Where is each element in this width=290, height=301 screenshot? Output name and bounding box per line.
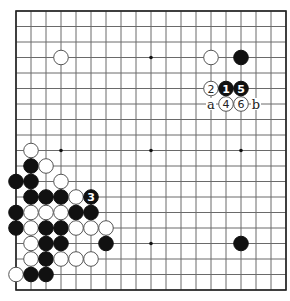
black-stone xyxy=(234,50,249,65)
black-stone xyxy=(84,205,99,220)
point-label: b xyxy=(251,97,261,112)
white-stone xyxy=(24,236,39,251)
black-stone: 1 xyxy=(219,81,234,96)
white-stone xyxy=(99,221,114,236)
white-stone: 2 xyxy=(204,81,219,96)
white-stone-circle xyxy=(69,252,84,267)
black-stone: 3 xyxy=(84,190,99,205)
black-stone-circle xyxy=(9,205,24,220)
white-stone-circle xyxy=(39,205,54,220)
move-number: 4 xyxy=(223,98,230,111)
white-stone-circle xyxy=(204,50,219,65)
star-point xyxy=(149,242,153,246)
black-stone xyxy=(39,190,54,205)
white-stone xyxy=(54,174,69,189)
black-stone-circle xyxy=(24,174,39,189)
black-stone xyxy=(9,221,24,236)
black-stone-circle xyxy=(234,50,249,65)
black-stone xyxy=(39,252,54,267)
black-stone xyxy=(234,236,249,251)
black-stone-circle xyxy=(234,236,249,251)
white-stone-circle xyxy=(84,221,99,236)
white-stone-circle xyxy=(69,190,84,205)
black-stone xyxy=(24,267,39,282)
black-stone-circle xyxy=(24,190,39,205)
white-stone-circle xyxy=(54,174,69,189)
white-stone xyxy=(54,205,69,220)
white-stone: 6 xyxy=(234,97,249,112)
black-stone xyxy=(24,174,39,189)
black-stone-circle xyxy=(39,221,54,236)
white-stone xyxy=(84,221,99,236)
black-stone xyxy=(39,221,54,236)
star-point xyxy=(149,149,153,153)
black-stone-circle xyxy=(39,267,54,282)
black-stone-circle xyxy=(99,236,114,251)
white-stone xyxy=(39,205,54,220)
go-board-diagram: 215463 ab xyxy=(0,0,290,301)
white-stone xyxy=(84,252,99,267)
white-stone xyxy=(54,50,69,65)
white-stone xyxy=(54,252,69,267)
star-point xyxy=(239,149,243,153)
white-stone-circle xyxy=(54,252,69,267)
black-stone: 5 xyxy=(234,81,249,96)
black-stone xyxy=(39,267,54,282)
white-stone xyxy=(24,205,39,220)
label-text: b xyxy=(252,97,260,112)
white-stone-circle xyxy=(39,159,54,174)
black-stone-circle xyxy=(9,174,24,189)
black-stone-circle xyxy=(54,236,69,251)
white-stone xyxy=(9,267,24,282)
black-stone xyxy=(24,190,39,205)
star-point xyxy=(59,149,63,153)
white-stone-circle xyxy=(24,236,39,251)
move-number: 3 xyxy=(87,191,95,204)
white-stone-circle xyxy=(54,50,69,65)
white-stone-circle xyxy=(99,221,114,236)
white-stone-circle xyxy=(24,252,39,267)
white-stone xyxy=(204,50,219,65)
white-stone-circle xyxy=(24,205,39,220)
black-stone-circle xyxy=(84,205,99,220)
black-stone-circle xyxy=(9,221,24,236)
white-stone xyxy=(24,252,39,267)
black-stone xyxy=(9,174,24,189)
white-stone xyxy=(24,221,39,236)
white-stone-circle xyxy=(84,252,99,267)
label-text: a xyxy=(207,97,215,112)
move-number: 5 xyxy=(237,83,245,96)
white-stone xyxy=(69,252,84,267)
star-point xyxy=(149,56,153,60)
point-label: a xyxy=(206,97,216,112)
go-board: 215463 ab xyxy=(0,0,290,301)
black-stone xyxy=(24,159,39,174)
black-stone xyxy=(99,236,114,251)
black-stone-circle xyxy=(39,236,54,251)
black-stone xyxy=(9,205,24,220)
black-stone-circle xyxy=(39,252,54,267)
white-stone-circle xyxy=(69,221,84,236)
black-stone-circle xyxy=(24,159,39,174)
black-stone xyxy=(54,236,69,251)
black-stone xyxy=(54,190,69,205)
white-stone: 4 xyxy=(219,97,234,112)
white-stone-circle xyxy=(9,267,24,282)
white-stone-circle xyxy=(24,143,39,158)
white-stone xyxy=(24,143,39,158)
black-stone-circle xyxy=(39,190,54,205)
black-stone xyxy=(39,236,54,251)
black-stone-circle xyxy=(69,205,84,220)
white-stone xyxy=(69,221,84,236)
black-stone-circle xyxy=(54,190,69,205)
black-stone xyxy=(54,221,69,236)
move-number: 6 xyxy=(238,98,245,111)
white-stone xyxy=(69,190,84,205)
move-number: 2 xyxy=(208,83,215,96)
black-stone xyxy=(69,205,84,220)
white-stone xyxy=(39,159,54,174)
white-stone-circle xyxy=(24,221,39,236)
white-stone-circle xyxy=(54,205,69,220)
move-number: 1 xyxy=(222,83,230,96)
black-stone-circle xyxy=(24,267,39,282)
